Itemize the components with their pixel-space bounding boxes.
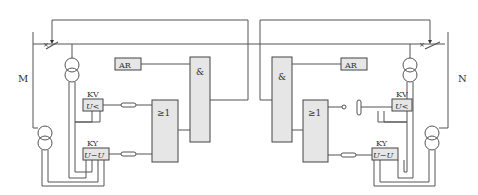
svg-text:×: × bbox=[43, 41, 49, 49]
auto-reclosing-diagram: × bbox=[0, 0, 478, 195]
kv-right-function: U< bbox=[395, 102, 408, 111]
kv-left-label: KV bbox=[87, 90, 99, 99]
or-left-label: ≥1 bbox=[157, 108, 170, 118]
ky-right-function: U−U bbox=[373, 151, 393, 160]
connector-kv-right-icon bbox=[357, 100, 361, 115]
ky-right-label: KY bbox=[376, 139, 388, 148]
kv-right-label: KV bbox=[396, 90, 408, 99]
or-right-label: ≥1 bbox=[308, 108, 321, 118]
kv-left-function: U< bbox=[86, 102, 99, 111]
and-gate-right bbox=[272, 57, 292, 142]
trip-wire-left bbox=[52, 20, 248, 100]
and-right-label: & bbox=[278, 72, 286, 82]
connector-ky-right-icon bbox=[341, 153, 356, 157]
ky-left-function: U−U bbox=[84, 151, 104, 160]
voltage-transformer-right-lower-icon bbox=[425, 126, 439, 150]
bus-n-label: N bbox=[458, 73, 467, 84]
voltage-transformer-left-upper-icon bbox=[65, 58, 79, 82]
connector-ky-left-icon bbox=[121, 152, 136, 156]
and-left-label: & bbox=[196, 67, 204, 77]
ky-left-label: KY bbox=[87, 139, 99, 148]
open-contact-icon bbox=[342, 105, 346, 109]
ar-right-label: AR bbox=[344, 61, 358, 70]
connector-kv-left-icon bbox=[121, 103, 136, 107]
svg-text:×: × bbox=[419, 41, 425, 49]
ar-left-label: AR bbox=[118, 61, 132, 70]
breaker-right-icon: × bbox=[419, 20, 440, 49]
bus-m-label: M bbox=[18, 73, 28, 84]
voltage-transformer-left-lower-icon bbox=[38, 126, 52, 150]
voltage-transformer-right-upper-icon bbox=[403, 58, 417, 82]
breaker-left-icon: × bbox=[43, 20, 58, 49]
